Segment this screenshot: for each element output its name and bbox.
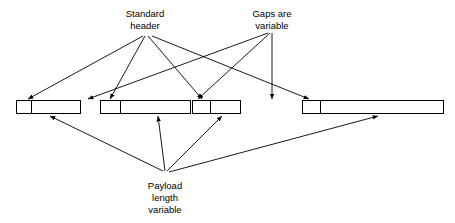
frame-3 bbox=[193, 101, 241, 114]
payload-to-frame1-arrow bbox=[50, 116, 163, 171]
gaps-to-gap1-arrow bbox=[88, 33, 268, 99]
payload-to-frame4-arrow bbox=[169, 116, 378, 172]
header-to-frame2-arrow bbox=[110, 36, 145, 99]
frame-1 bbox=[17, 101, 81, 114]
label-gaps-are-variable: Gaps arevariable bbox=[252, 8, 291, 31]
frame-4-outline bbox=[303, 101, 444, 114]
payload-to-frame3-arrow bbox=[167, 116, 222, 171]
label-standard-header-line-1: header bbox=[130, 20, 160, 31]
gaps-to-gap2-arrow bbox=[198, 33, 270, 99]
label-payload-length-variable-line-2: variable bbox=[148, 204, 181, 215]
label-payload-length-variable-line-0: Payload bbox=[148, 180, 182, 191]
header-to-frame1-arrow bbox=[28, 36, 143, 99]
payload-to-frame2-arrow bbox=[158, 116, 165, 171]
frame-4 bbox=[303, 101, 444, 114]
frame-3-outline bbox=[193, 101, 241, 114]
label-payload-length-variable-line-1: length bbox=[152, 192, 178, 203]
frame-2 bbox=[101, 101, 191, 114]
frame-2-outline bbox=[101, 101, 191, 114]
label-payload-length-variable: Payloadlengthvariable bbox=[148, 180, 182, 215]
packet-frame-diagram: StandardheaderGaps arevariablePayloadlen… bbox=[0, 0, 455, 223]
frame-1-outline bbox=[17, 101, 81, 114]
diagram-canvas: StandardheaderGaps arevariablePayloadlen… bbox=[0, 0, 455, 223]
label-standard-header-line-0: Standard bbox=[126, 8, 165, 19]
label-standard-header: Standardheader bbox=[126, 8, 165, 31]
frames-layer bbox=[17, 101, 444, 114]
label-gaps-are-variable-line-1: variable bbox=[255, 20, 288, 31]
label-gaps-are-variable-line-0: Gaps are bbox=[252, 8, 291, 19]
